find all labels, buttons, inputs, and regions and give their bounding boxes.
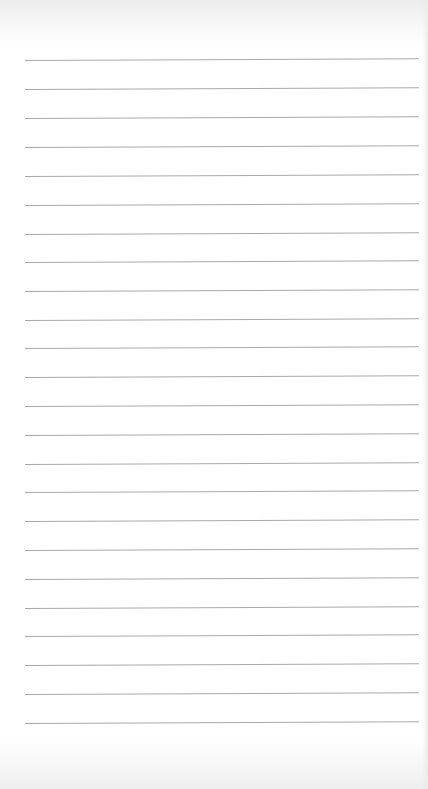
ruled-line [25, 58, 419, 61]
ruled-line [25, 519, 419, 522]
ruled-line [25, 606, 419, 609]
ruled-line [25, 87, 419, 90]
ruled-line [25, 663, 419, 666]
ruled-line [25, 490, 419, 493]
ruled-line [25, 692, 419, 695]
ruled-line [25, 260, 419, 263]
lined-paper [0, 0, 428, 789]
ruled-line [25, 145, 419, 148]
ruled-line [25, 289, 419, 292]
ruled-line [25, 116, 419, 119]
ruled-line [25, 577, 419, 580]
paper-edge-shadow [422, 0, 428, 789]
ruled-line [25, 548, 419, 551]
ruled-line [25, 375, 419, 378]
ruled-line [25, 462, 419, 465]
ruled-line [25, 634, 419, 637]
ruled-line [25, 433, 419, 436]
ruled-line [25, 203, 419, 206]
ruled-line [25, 346, 419, 349]
ruled-line [25, 721, 419, 724]
ruled-line [25, 174, 419, 177]
ruled-line [25, 232, 419, 235]
ruled-line [25, 404, 419, 407]
ruled-line [25, 318, 419, 321]
